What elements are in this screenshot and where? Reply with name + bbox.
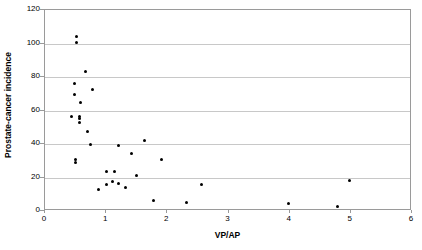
x-axis-tick-mark	[105, 210, 106, 213]
scatter-chart-figure: Prostate-cancer incidence 02040608010012…	[0, 0, 422, 250]
data-point	[135, 174, 138, 177]
data-point	[73, 93, 76, 96]
data-point	[200, 183, 203, 186]
x-axis-tick-mark	[350, 210, 351, 213]
x-axis-tick-label: 1	[95, 215, 115, 223]
x-axis-tick-mark	[44, 210, 45, 213]
data-point	[75, 35, 78, 38]
x-axis-tick-label: 4	[279, 215, 299, 223]
data-point	[97, 188, 100, 191]
gridline	[45, 77, 410, 78]
x-axis-tick-label: 2	[156, 215, 176, 223]
x-axis-tick-label: 5	[340, 215, 360, 223]
data-point	[111, 180, 114, 183]
data-point	[105, 183, 108, 186]
data-point	[185, 201, 188, 204]
data-point	[84, 70, 87, 73]
x-axis-tick-label: 0	[34, 215, 54, 223]
data-point	[124, 186, 127, 189]
y-axis-tick-label: 120	[16, 5, 40, 13]
x-axis-tick-mark	[166, 210, 167, 213]
data-point	[78, 117, 81, 120]
data-point	[348, 179, 351, 182]
x-axis-tick-mark	[289, 210, 290, 213]
data-point	[113, 170, 116, 173]
gridline	[45, 178, 410, 179]
data-point	[143, 139, 146, 142]
plot-area	[44, 9, 411, 210]
data-point	[152, 199, 155, 202]
y-axis-tick-label: 100	[16, 39, 40, 47]
x-axis-title: VP/AP	[44, 230, 411, 240]
y-axis-tick-label: 20	[16, 173, 40, 181]
data-point	[117, 182, 120, 185]
gridline	[45, 144, 410, 145]
y-axis-tick-label: 80	[16, 72, 40, 80]
x-axis-tick-labels: 0123456	[44, 210, 411, 230]
y-axis-tick-label: 40	[16, 139, 40, 147]
gridline	[45, 111, 410, 112]
data-point	[91, 88, 94, 91]
data-point	[287, 202, 290, 205]
data-point	[160, 158, 163, 161]
data-point	[79, 101, 82, 104]
data-point	[89, 143, 92, 146]
data-point	[336, 205, 339, 208]
y-axis-tick-label: 0	[16, 206, 40, 214]
data-point	[70, 115, 73, 118]
x-axis-tick-label: 6	[401, 215, 421, 223]
data-point	[73, 82, 76, 85]
y-axis-title-text: Prostate-cancer incidence	[3, 52, 13, 158]
y-axis-tick-label: 60	[16, 106, 40, 114]
x-axis-tick-label: 3	[218, 215, 238, 223]
data-point	[117, 144, 120, 147]
data-point	[130, 152, 133, 155]
y-axis-tick-labels: 020406080100120	[14, 9, 40, 210]
gridline	[45, 44, 410, 45]
data-point	[86, 130, 89, 133]
x-axis-tick-mark	[228, 210, 229, 213]
x-axis-tick-mark	[411, 210, 412, 213]
data-point	[78, 121, 81, 124]
data-point	[105, 170, 108, 173]
data-point	[74, 161, 77, 164]
